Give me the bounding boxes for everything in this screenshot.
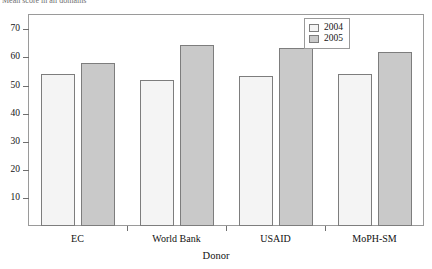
legend-swatch-2005-icon — [309, 35, 319, 43]
bar-2005-moph-sm — [378, 52, 412, 226]
legend-label: 2004 — [324, 23, 343, 33]
legend-swatch-2004-icon — [309, 24, 319, 32]
y-axis-tick — [23, 86, 29, 87]
legend-item: 2004 — [309, 23, 343, 33]
bar-2005-ec — [81, 63, 115, 226]
y-axis-tick — [23, 198, 29, 199]
x-axis-category-label: World Bank — [127, 233, 226, 245]
x-axis-tick — [226, 226, 227, 231]
bar-2004-world-bank — [140, 80, 174, 226]
legend-item: 2005 — [309, 34, 343, 44]
bar-2005-world-bank — [180, 45, 214, 226]
y-axis-label: 40 — [0, 109, 20, 119]
x-axis-category-label: USAID — [226, 233, 325, 245]
y-axis-tick — [23, 29, 29, 30]
bar-2005-usaid — [279, 48, 313, 226]
y-axis-tick — [23, 170, 29, 171]
x-axis-title: Donor — [0, 250, 432, 261]
y-axis-label: 10 — [0, 193, 20, 203]
legend: 2004 2005 — [304, 18, 350, 49]
y-axis-tick — [23, 114, 29, 115]
x-axis-category-label: MoPH-SM — [325, 233, 424, 245]
y-axis-label: 50 — [0, 81, 20, 91]
y-axis-label: 60 — [0, 52, 20, 62]
x-axis-category-label: EC — [28, 233, 127, 245]
y-axis-label: 20 — [0, 165, 20, 175]
bar-2004-ec — [41, 74, 75, 226]
y-axis-tick — [23, 57, 29, 58]
legend-label: 2005 — [324, 34, 343, 44]
chart-root: Mean score in all domains 10203040506070… — [0, 0, 432, 269]
y-axis-label: 70 — [0, 24, 20, 34]
bar-2004-usaid — [239, 76, 273, 226]
figure-caption: Mean score in all domains — [2, 0, 162, 5]
bar-2004-moph-sm — [338, 74, 372, 226]
y-axis-label: 30 — [0, 137, 20, 147]
x-axis-tick — [127, 226, 128, 231]
y-axis-tick — [23, 142, 29, 143]
x-axis-tick — [325, 226, 326, 231]
